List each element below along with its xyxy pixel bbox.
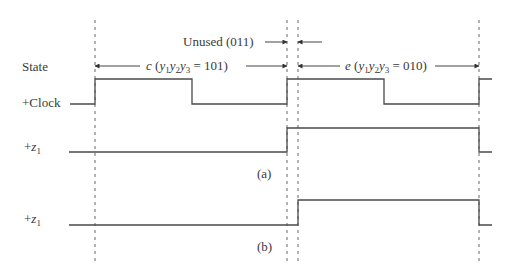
state-e-value: = 010) xyxy=(389,58,427,73)
caption-b: (b) xyxy=(257,240,272,253)
state-e-label: e (y1y2y3 = 010) xyxy=(345,59,427,72)
state-c-label: c (y1y2y3 = 101) xyxy=(146,59,228,72)
clock-label: +Clock xyxy=(22,96,60,109)
z1a-label: +z1 xyxy=(24,140,41,153)
z1b-sub: 1 xyxy=(36,218,41,228)
z1b-label: +z1 xyxy=(24,212,41,225)
clock-label-text: Clock xyxy=(29,95,60,110)
clock-waveform xyxy=(70,79,492,104)
timing-diagram xyxy=(0,0,512,276)
caption-a: (a) xyxy=(257,167,271,180)
state-c-value: = 101) xyxy=(190,58,228,73)
state-label: State xyxy=(22,60,48,73)
z1-waveform-a xyxy=(69,128,492,152)
z1a-sub: 1 xyxy=(36,146,41,156)
z1-waveform-b xyxy=(69,200,492,225)
unused-state-label: Unused (011) xyxy=(183,35,254,48)
